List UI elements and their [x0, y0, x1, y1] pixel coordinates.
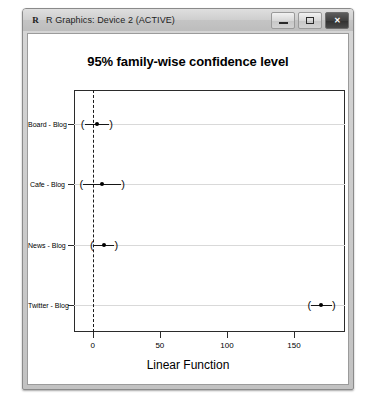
plot-frame — [74, 90, 345, 332]
y-axis-label: News - Blog — [28, 241, 65, 248]
chart-title: 95% family-wise confidence level — [28, 54, 348, 69]
point-estimate-marker — [319, 303, 323, 307]
interval-lower-cap: ( — [307, 300, 311, 310]
interval-lower-cap: ( — [79, 179, 83, 189]
x-axis-tick — [227, 332, 228, 338]
point-estimate-marker — [95, 122, 99, 126]
interval-upper-cap: ) — [109, 119, 113, 129]
x-axis-tick — [93, 332, 94, 338]
row-gridline — [74, 124, 345, 125]
window-titlebar[interactable]: R R Graphics: Device 2 (ACTIVE) ✕ — [23, 9, 353, 31]
r-graphics-window: R R Graphics: Device 2 (ACTIVE) ✕ 95% fa… — [22, 8, 354, 390]
interval-lower-cap: ( — [81, 119, 85, 129]
interval-lower-cap: ( — [90, 240, 94, 250]
window-controls: ✕ — [271, 12, 349, 29]
x-axis-tick-label: 100 — [220, 341, 233, 350]
x-axis-tick-label: 150 — [287, 341, 300, 350]
y-axis-label: Cafe - Blog — [28, 181, 65, 188]
y-axis-tick — [68, 184, 74, 185]
y-axis-tick — [68, 245, 74, 246]
r-logo-icon: R — [30, 15, 41, 26]
y-axis-label: Twitter - Blog — [28, 302, 65, 309]
interval-upper-cap: ) — [115, 240, 119, 250]
x-axis-label: Linear Function — [28, 358, 348, 372]
maximize-icon — [306, 17, 314, 24]
interval-upper-cap: ) — [332, 300, 336, 310]
minimize-button[interactable] — [271, 12, 295, 29]
plot-area: 95% family-wise confidence level Linear … — [28, 34, 348, 384]
interval-upper-cap: ) — [121, 179, 125, 189]
row-gridline — [74, 305, 345, 306]
point-estimate-marker — [102, 243, 106, 247]
close-button[interactable]: ✕ — [325, 12, 349, 29]
minimize-icon — [279, 22, 288, 24]
window-title: R Graphics: Device 2 (ACTIVE) — [46, 15, 175, 25]
y-axis-label: Board - Blog — [28, 120, 65, 127]
zero-reference-line — [93, 90, 94, 332]
maximize-button[interactable] — [298, 12, 322, 29]
x-axis-tick — [160, 332, 161, 338]
graphics-canvas: 95% family-wise confidence level Linear … — [27, 33, 349, 385]
x-axis-tick-label: 0 — [91, 341, 95, 350]
y-axis-tick — [68, 124, 74, 125]
x-axis-tick-label: 50 — [155, 341, 164, 350]
x-axis-tick — [294, 332, 295, 338]
screenshot-root: R R Graphics: Device 2 (ACTIVE) ✕ 95% fa… — [0, 0, 376, 418]
close-icon: ✕ — [334, 17, 341, 25]
